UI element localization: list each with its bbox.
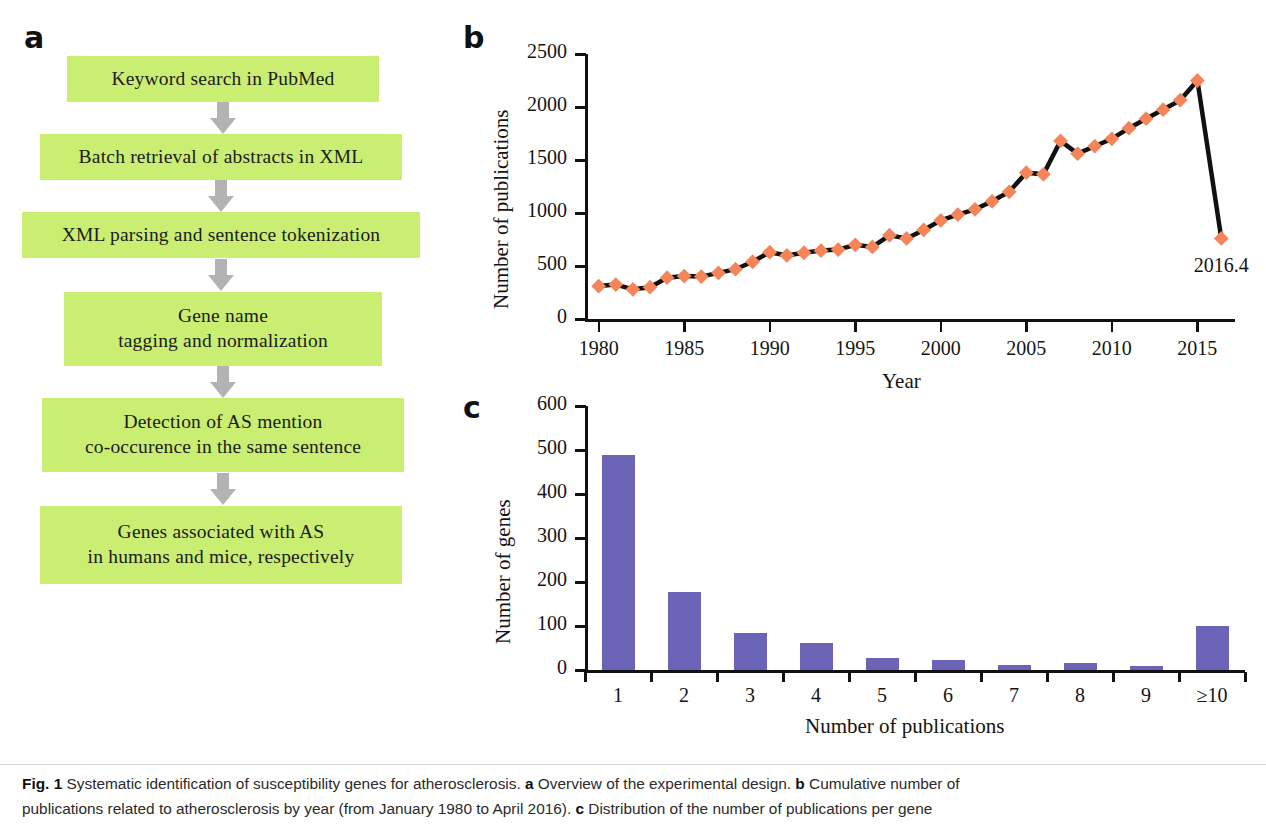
panel-b-marker [848, 237, 863, 252]
caption-tag-b: b [795, 775, 804, 792]
panel-c-plot-area: 0100200300400500600123456789≥10Number of… [455, 382, 1266, 750]
panel-c-bar [1130, 666, 1163, 670]
panel-b-marker [591, 279, 606, 294]
panel-c-x-ticklabel: ≥10 [1172, 684, 1252, 707]
panel-b-marker [728, 262, 743, 277]
panel-c-y-ticklabel: 600 [455, 392, 567, 415]
panel-b-marker [814, 243, 829, 258]
panel-c-y-tick [575, 449, 586, 452]
panel-c-bar [866, 658, 899, 670]
panel-c-bar-chart: c 0100200300400500600123456789≥10Number … [455, 382, 1266, 750]
caption-figure-number: Fig. 1 [22, 775, 62, 792]
panel-b-marker [1036, 167, 1051, 182]
caption-text-4: publications related to atherosclerosis … [22, 800, 576, 817]
panel-c-bar [602, 455, 635, 670]
panel-b-marker [797, 245, 812, 260]
panel-c-x-tick [650, 672, 653, 682]
flow-step-4: Gene nametagging and normalization [64, 292, 382, 366]
panel-c-bar [932, 660, 965, 670]
panel-b-marker [625, 282, 640, 297]
caption-tag-a: a [525, 775, 534, 792]
flow-step-3: XML parsing and sentence tokenization [22, 212, 420, 258]
panel-c-y-ticklabel: 0 [455, 656, 567, 679]
flow-step-label: XML parsing and sentence tokenization [62, 223, 381, 248]
panel-b-line [599, 81, 1222, 290]
panel-c-x-tick [1046, 672, 1049, 682]
panel-b-marker [677, 269, 692, 284]
panel-c-bar [1196, 626, 1229, 670]
caption-tag-c: c [576, 800, 585, 817]
panel-c-y-axis-title: Number of genes [491, 499, 516, 644]
panel-c-y-tick [575, 625, 586, 628]
panel-c-x-tick [716, 672, 719, 682]
flow-arrow-down-icon-1 [208, 101, 238, 135]
panel-b-plot-area: 0500100015002000250019801985199019952000… [455, 14, 1266, 394]
caption-line-1: Fig. 1 Systematic identification of susc… [22, 772, 1246, 797]
caption-text-2: Overview of the experimental design. [534, 775, 796, 792]
panel-c-bar [800, 643, 833, 670]
panel-c-x-tick [584, 672, 587, 682]
panel-c-x-tick [848, 672, 851, 682]
panel-c-y-tick [575, 405, 586, 408]
panel-c-y-tick [575, 581, 586, 584]
panel-c-x-tick [914, 672, 917, 682]
caption-line-2: publications related to atherosclerosis … [22, 797, 1246, 822]
panel-b-marker [831, 242, 846, 257]
flow-step-label: Keyword search in PubMed [111, 67, 334, 92]
panel-c-bar [1064, 663, 1097, 670]
panel-a-letter: a [24, 20, 44, 55]
panel-c-y-tick [575, 537, 586, 540]
panel-b-annotation-2016-4: 2016.4 [1169, 254, 1266, 277]
panel-b-series [455, 14, 1266, 394]
panel-c-bar [734, 633, 767, 670]
panel-b-marker [694, 269, 709, 284]
panel-b-marker [608, 277, 623, 292]
flow-step-5: Detection of AS mentionco-occurence in t… [42, 398, 404, 472]
flow-step-1: Keyword search in PubMed [67, 56, 379, 102]
caption-text-1: Systematic identification of susceptibil… [62, 775, 525, 792]
panel-c-x-tick [1178, 672, 1181, 682]
panel-a-flowchart: a Keyword search in PubMedBatch retrieva… [0, 0, 452, 750]
panel-b-marker [950, 207, 965, 222]
panel-c-y-ticklabel: 500 [455, 436, 567, 459]
flow-step-2: Batch retrieval of abstracts in XML [40, 134, 402, 180]
panel-c-x-axis-title: Number of publications [805, 714, 1004, 739]
panel-c-x-tick [1112, 672, 1115, 682]
panel-b-marker [779, 248, 794, 263]
caption-text-5: Distribution of the number of publicatio… [584, 800, 932, 817]
panel-c-x-tick [980, 672, 983, 682]
flow-arrow-down-icon-5 [208, 472, 238, 506]
flow-arrow-down-icon-4 [208, 365, 238, 399]
panel-c-y-tick [575, 493, 586, 496]
flow-arrow-down-icon-3 [206, 258, 236, 292]
panel-c-bar [668, 592, 701, 670]
panel-b-line-chart: b 05001000150020002500198019851990199520… [455, 14, 1266, 394]
flow-step-label: Gene nametagging and normalization [118, 304, 328, 354]
flow-step-label: Detection of AS mentionco-occurence in t… [85, 410, 361, 460]
figure-1: a Keyword search in PubMedBatch retrieva… [0, 0, 1266, 838]
panel-b-marker [1214, 231, 1229, 246]
panel-b-marker [968, 202, 983, 217]
panel-c-x-tick [1244, 672, 1247, 682]
flow-arrow-down-icon-2 [206, 179, 236, 213]
flow-step-label: Genes associated with ASin humans and mi… [88, 520, 355, 570]
flow-step-label: Batch retrieval of abstracts in XML [79, 145, 364, 170]
panel-b-marker [1087, 139, 1102, 154]
flow-step-6: Genes associated with ASin humans and mi… [40, 506, 402, 584]
panel-b-marker [899, 231, 914, 246]
caption-text-3: Cumulative number of [805, 775, 960, 792]
figure-caption: Fig. 1 Systematic identification of susc… [22, 772, 1246, 822]
caption-divider [0, 764, 1266, 765]
panel-c-x-tick [782, 672, 785, 682]
panel-b-marker [711, 265, 726, 280]
panel-c-bar [998, 665, 1031, 670]
